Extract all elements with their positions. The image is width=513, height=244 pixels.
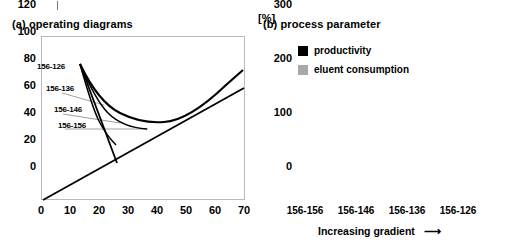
panel-a-xtick-20: 20 xyxy=(85,204,113,216)
panel-a-ytick-20: 20 xyxy=(2,133,36,145)
curve-annotation-156-156: 156-156 xyxy=(58,121,86,130)
panel-b-ytick-300: 300 xyxy=(256,0,292,10)
curve-156-156 xyxy=(80,64,117,163)
panel-a-ytick-0: 0 xyxy=(2,160,36,172)
panel-b-unit-label: [%] xyxy=(258,12,275,24)
legend-label-productivity: productivity xyxy=(314,45,371,56)
panel-b-ytick-0: 0 xyxy=(256,160,292,172)
panel-a-xtick-50: 50 xyxy=(172,204,200,216)
curve-annotation-156-126: 156-126 xyxy=(37,62,65,71)
panel-b-category-156-126: 156-126 xyxy=(422,205,494,216)
panel-a-xtick-0: 0 xyxy=(27,204,55,216)
panel-a-ytick-80: 80 xyxy=(2,52,36,64)
curve-annotation-156-136: 156-136 xyxy=(46,84,74,93)
panel-a-ytick-60: 60 xyxy=(2,79,36,91)
legend-item-productivity: productivity xyxy=(298,45,371,56)
panel-a-xtick-10: 10 xyxy=(56,204,84,216)
panel-a-xtick-60: 60 xyxy=(201,204,229,216)
panel-a-plot-area xyxy=(41,36,245,200)
panel-a-xtick-40: 40 xyxy=(143,204,171,216)
panel-a-ytick-40: 40 xyxy=(2,106,36,118)
panel-b-axis-note-text: Increasing gradient xyxy=(318,225,415,237)
panel-b-axis-note: Increasing gradient ⟶ xyxy=(318,224,441,238)
panel-a-xtick-30: 30 xyxy=(114,204,142,216)
panel-b-title: (b) process parameter xyxy=(263,18,381,30)
panel-operating-diagrams: (a) operating diagrams 0 20 40 60 80 100… xyxy=(0,0,256,244)
curve-156-126 xyxy=(80,64,243,122)
panel-b-ytick-200: 200 xyxy=(256,52,292,64)
panel-b-ytick-100: 100 xyxy=(256,106,292,118)
legend-label-eluent-consumption: eluent consumption xyxy=(314,64,409,75)
legend-swatch-productivity xyxy=(298,46,308,56)
legend-swatch-eluent-consumption xyxy=(298,65,308,75)
panel-a-ytick-100: 100 xyxy=(2,25,36,37)
panel-a-ytick-120: 120 xyxy=(2,0,36,10)
increasing-gradient-arrow-icon: ⟶ xyxy=(424,224,441,238)
legend-item-eluent-consumption: eluent consumption xyxy=(298,64,409,75)
panel-a-xtick-70: 70 xyxy=(230,204,258,216)
figure-root: (a) operating diagrams 0 20 40 60 80 100… xyxy=(0,0,513,244)
curve-annotation-156-146: 156-146 xyxy=(54,105,82,114)
panel-a-curves xyxy=(42,37,246,201)
crop-tick-artifact xyxy=(57,1,58,10)
panel-process-parameter: (b) process parameter 0 100 200 300 [%] xyxy=(256,0,513,244)
